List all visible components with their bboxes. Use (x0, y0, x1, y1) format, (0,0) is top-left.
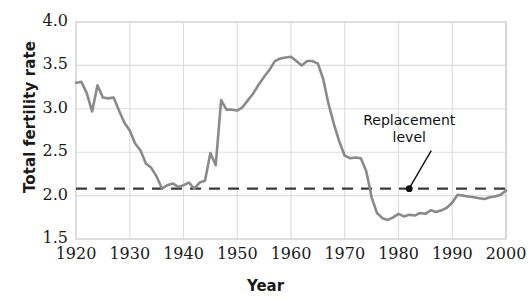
annotation-line-1: Replacement (349, 112, 469, 129)
annotation-line-2: level (349, 129, 469, 146)
replacement-level-annotation: Replacement level (349, 112, 469, 145)
plot-area (0, 0, 531, 302)
annotation-arrow (406, 151, 431, 192)
fertility-rate-chart: Total fertility rate Year 1.52.02.53.03.… (0, 0, 531, 302)
